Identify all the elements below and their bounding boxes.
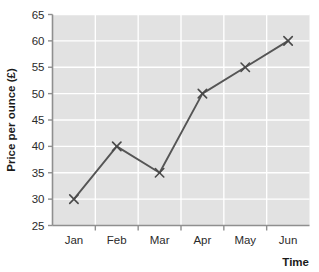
y-tick-label: 50 [32, 88, 45, 100]
y-tick-label: 30 [32, 193, 45, 205]
y-tick-label: 60 [32, 35, 45, 47]
x-tick-label: Feb [107, 234, 127, 246]
y-tick-label: 40 [32, 140, 45, 152]
line-chart: 253035404550556065 JanFebMarAprMayJun Pr… [0, 0, 319, 272]
x-tick-label: Mar [150, 234, 170, 246]
y-tick-label: 45 [32, 114, 45, 126]
x-tick-label: Apr [193, 234, 211, 246]
y-tick-label: 55 [32, 61, 45, 73]
x-tick-label: Jun [279, 234, 298, 246]
y-tick-label: 65 [32, 9, 45, 21]
x-axis-label: Time [282, 256, 309, 268]
y-axis-label: Price per ounce (£) [5, 68, 17, 172]
y-tick-label: 25 [32, 220, 45, 232]
y-tick-label: 35 [32, 167, 45, 179]
chart-canvas: 253035404550556065 JanFebMarAprMayJun Pr… [0, 0, 319, 272]
x-tick-label: May [234, 234, 256, 246]
x-tick-label: Jan [65, 234, 84, 246]
y-axis-tick-labels: 253035404550556065 [32, 9, 45, 232]
